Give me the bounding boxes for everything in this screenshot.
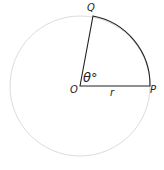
- label-p: P: [150, 85, 156, 95]
- label-o: O: [70, 85, 78, 95]
- label-r: r: [110, 88, 114, 98]
- label-q: Q: [87, 3, 95, 13]
- label-theta: θ°: [83, 71, 97, 84]
- sector-diagram: [0, 0, 164, 170]
